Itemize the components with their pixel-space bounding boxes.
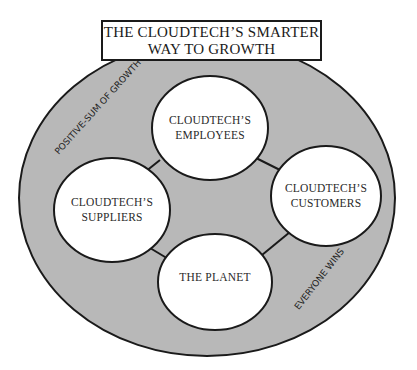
node-customers-line1: CLOUDTECH’S xyxy=(285,181,367,196)
node-customers: CLOUDTECH’S CUSTOMERS xyxy=(271,168,381,224)
node-planet-line1: THE PLANET xyxy=(179,270,250,285)
diagram-canvas: THE CLOUDTECH’S SMARTER WAY TO GROWTH PO… xyxy=(0,0,417,370)
node-suppliers-line1: CLOUDTECH’S xyxy=(71,195,153,210)
diagram-title: THE CLOUDTECH’S SMARTER WAY TO GROWTH xyxy=(101,20,322,61)
node-planet: THE PLANET xyxy=(158,258,272,296)
node-employees: CLOUDTECH’S EMPLOYEES xyxy=(152,100,268,156)
title-line-2: WAY TO GROWTH xyxy=(148,41,276,58)
node-customers-line2: CUSTOMERS xyxy=(291,196,362,211)
node-suppliers-line2: SUPPLIERS xyxy=(81,210,142,225)
title-line-1: THE CLOUDTECH’S SMARTER xyxy=(104,24,319,41)
node-suppliers: CLOUDTECH’S SUPPLIERS xyxy=(54,182,170,238)
node-employees-line2: EMPLOYEES xyxy=(175,128,245,143)
node-employees-line1: CLOUDTECH’S xyxy=(169,113,251,128)
